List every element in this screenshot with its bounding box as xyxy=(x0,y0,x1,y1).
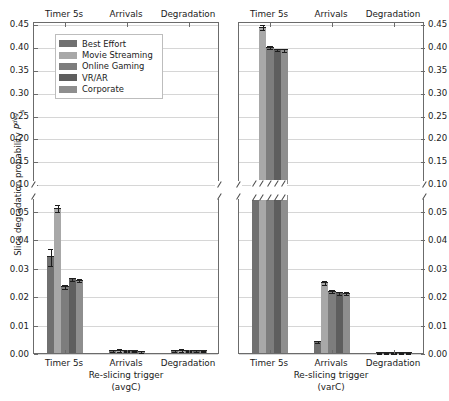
gridline xyxy=(34,117,218,118)
error-cap xyxy=(139,353,144,354)
y-tick-label: 0.00 xyxy=(0,349,29,359)
y-tick xyxy=(421,269,425,270)
error-cap xyxy=(55,205,60,206)
y-tick xyxy=(421,162,425,163)
x-tick xyxy=(332,350,333,354)
y-tick-label: 0.04 xyxy=(428,235,449,245)
error-cap xyxy=(70,278,75,279)
gridline xyxy=(34,240,218,241)
error-cap xyxy=(62,289,67,290)
legend-item: Best Effort xyxy=(59,38,158,49)
y-tick-label: 0.40 xyxy=(428,42,449,52)
error-cap xyxy=(275,49,280,50)
bar-varC-0-2 xyxy=(266,47,273,184)
y-tick-label: 0.10 xyxy=(0,179,29,189)
error-cap xyxy=(201,352,206,353)
x-axis-label-line1: Re-slicing trigger xyxy=(238,370,424,382)
y-tick xyxy=(34,162,38,163)
bar-varC-1-4 xyxy=(343,293,350,353)
legend-item: Corporate xyxy=(59,84,158,95)
legend: Best EffortMovie StreamingOnline GamingV… xyxy=(55,34,163,99)
y-tick xyxy=(421,25,425,26)
bar-varC-0-2 xyxy=(266,195,273,353)
legend-item: Movie Streaming xyxy=(59,49,158,60)
y-tick-label: 0.04 xyxy=(0,235,29,245)
top-label-2: Degradation xyxy=(353,9,433,19)
bar-varC-0-3 xyxy=(274,49,281,184)
error-cap xyxy=(329,293,334,294)
error-cap xyxy=(329,290,334,291)
error-cap xyxy=(132,352,137,353)
error-cap xyxy=(62,285,67,286)
x-tick-label-2: Degradation xyxy=(355,358,431,368)
gridline xyxy=(34,139,218,140)
y-tick xyxy=(34,326,38,327)
y-tick xyxy=(421,297,425,298)
error-cap xyxy=(344,295,349,296)
gridline xyxy=(239,25,423,26)
y-tick-label: 0.01 xyxy=(0,321,29,331)
y-tick xyxy=(34,139,38,140)
bar-varC-0-1 xyxy=(259,195,266,353)
y-tick-label: 0.02 xyxy=(428,292,449,302)
y-tick xyxy=(34,269,38,270)
legend-item: Online Gaming xyxy=(59,61,158,72)
x-tick xyxy=(189,350,190,354)
bar-varC-1-3 xyxy=(336,292,343,353)
bar-avgC-0-1 xyxy=(54,208,61,353)
x-tick xyxy=(65,350,66,354)
legend-swatch-2 xyxy=(59,63,77,70)
error-cap xyxy=(77,282,82,283)
error-cap xyxy=(48,249,53,250)
gridline xyxy=(34,269,218,270)
error-cap xyxy=(406,354,411,355)
y-tick xyxy=(421,139,425,140)
x-tick-top xyxy=(270,23,271,27)
x-axis-label-line2: (varC) xyxy=(238,382,424,394)
legend-label: Best Effort xyxy=(82,39,126,49)
x-tick-top xyxy=(65,23,66,27)
bar-varC-0-4 xyxy=(281,195,288,353)
error-cap xyxy=(70,281,75,282)
y-tick xyxy=(421,212,425,213)
error-cap xyxy=(117,352,122,353)
y-tick-label: 0.15 xyxy=(0,156,29,166)
y-tick xyxy=(34,25,38,26)
x-tick xyxy=(270,350,271,354)
x-tick-top xyxy=(332,23,333,27)
y-tick-label: 0.03 xyxy=(428,264,449,274)
error-cap xyxy=(337,295,342,296)
error-cap xyxy=(282,52,287,53)
y-tick-label: 0.02 xyxy=(0,292,29,302)
legend-label: Corporate xyxy=(82,84,124,94)
error-cap xyxy=(77,279,82,280)
y-tick-label: 0.20 xyxy=(428,133,449,143)
legend-swatch-3 xyxy=(59,74,77,81)
bar-varC-0-0 xyxy=(252,195,259,353)
axes-varC-bot xyxy=(238,196,424,354)
error-cap xyxy=(55,212,60,213)
axes-avgC-bot xyxy=(33,196,219,354)
y-tick xyxy=(34,71,38,72)
bar-avgC-0-3 xyxy=(69,278,76,353)
y-tick-label: 0.05 xyxy=(0,207,29,217)
y-tick-label: 0.00 xyxy=(428,349,449,359)
gridline xyxy=(34,212,218,213)
bar-varC-1-2 xyxy=(328,291,335,353)
x-axis-label-line2: (avgC) xyxy=(33,382,219,394)
y-tick xyxy=(34,240,38,241)
y-tick-label: 0.40 xyxy=(0,42,29,52)
error-cap xyxy=(315,343,320,344)
y-tick xyxy=(421,117,425,118)
error-cap xyxy=(267,49,272,50)
error-cap xyxy=(275,51,280,52)
y-tick xyxy=(421,48,425,49)
bar-varC-0-4 xyxy=(281,49,288,184)
x-tick xyxy=(394,350,395,354)
error-cap xyxy=(384,354,389,355)
error-cap xyxy=(260,25,265,26)
y-tick-label: 0.01 xyxy=(428,321,449,331)
error-cap xyxy=(179,352,184,353)
legend-label: VR/AR xyxy=(82,73,108,83)
error-cap xyxy=(337,292,342,293)
